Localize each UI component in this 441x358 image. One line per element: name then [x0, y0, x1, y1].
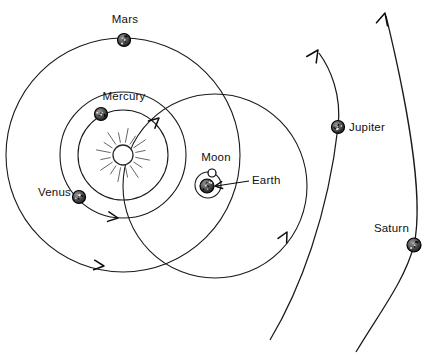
moon-body	[208, 169, 216, 177]
planet-texture-dot	[415, 241, 417, 243]
planet-texture-dot	[104, 114, 106, 116]
label-mercury: Mercury	[103, 90, 146, 102]
planet-texture-dot	[338, 124, 340, 126]
planet-texture-dot	[78, 194, 80, 196]
planet-texture-dot	[122, 38, 123, 39]
planet-texture-dot	[96, 112, 98, 114]
planet-texture-dot	[81, 195, 83, 197]
planet-texture-dot	[205, 183, 206, 184]
planet-texture-dot	[75, 197, 77, 199]
label-jupiter: Jupiter	[349, 121, 385, 133]
planet-texture-dot	[206, 182, 207, 183]
planet-texture-dot	[413, 243, 414, 244]
planet-texture-dot	[207, 185, 209, 187]
planet-texture-dot	[205, 185, 207, 187]
label-mars: Mars	[112, 13, 138, 25]
planet-texture-dot	[78, 198, 80, 200]
planet-texture-dot	[125, 41, 126, 42]
planet-earth-body	[200, 179, 214, 193]
planet-texture-dot	[334, 128, 336, 130]
planet-texture-dot	[78, 196, 79, 197]
planet-venus	[73, 191, 86, 204]
planet-texture-dot	[125, 42, 126, 43]
planet-texture-dot	[123, 39, 125, 41]
planet-texture-dot	[100, 114, 102, 116]
solar-system-diagram: MercuryVenusMarsEarthJupiterSaturnMoon	[0, 0, 441, 358]
planet-jupiter	[332, 121, 345, 134]
solar-system-canvas: MercuryVenusMarsEarthJupiterSaturnMoon	[0, 0, 441, 358]
planet-texture-dot	[121, 42, 123, 44]
planet-texture-dot	[98, 115, 99, 116]
planet-texture-dot	[338, 127, 339, 128]
planet-texture-dot	[414, 247, 415, 248]
planet-texture-dot	[124, 36, 126, 38]
planet-texture-dot	[341, 125, 343, 127]
planet-mars	[118, 34, 131, 47]
planet-texture-dot	[410, 247, 412, 249]
label-moon: Moon	[201, 151, 231, 163]
planet-texture-dot	[207, 189, 208, 190]
label-saturn: Saturn	[374, 222, 409, 234]
planet-texture-dot	[413, 244, 415, 246]
planet-texture-dot	[99, 115, 100, 116]
planet-texture-dot	[209, 181, 211, 183]
diagram-background	[0, 0, 441, 358]
planet-texture-dot	[102, 112, 103, 113]
planet-texture-dot	[337, 128, 339, 130]
label-venus: Venus	[38, 186, 71, 198]
sun-body	[113, 145, 133, 165]
planet-earth	[200, 179, 214, 193]
planet-mercury	[95, 108, 108, 121]
planet-texture-dot	[203, 188, 205, 190]
planet-saturn	[407, 238, 421, 252]
planet-texture-dot	[414, 246, 415, 247]
label-earth: Earth	[252, 174, 281, 186]
